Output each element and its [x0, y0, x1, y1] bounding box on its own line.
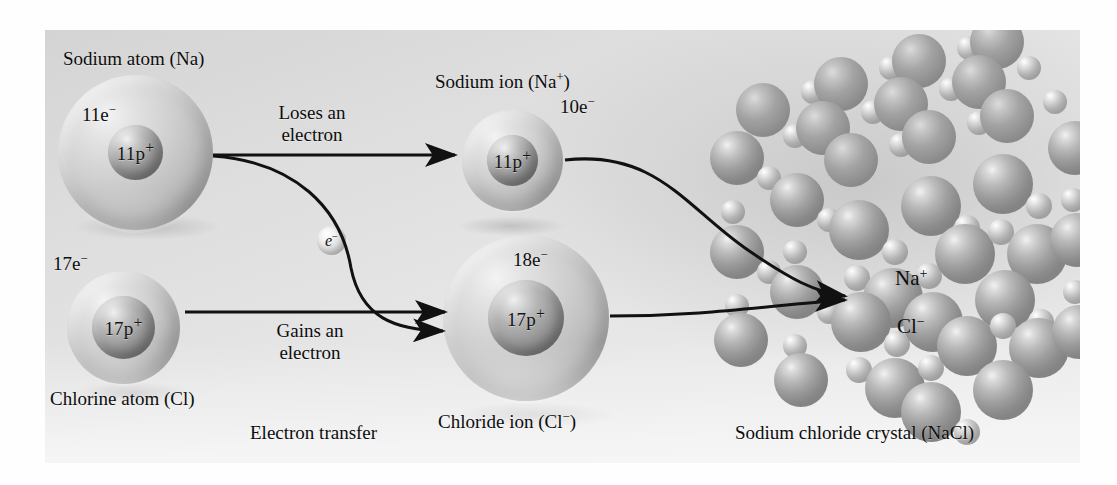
arrow-na-to-crystal — [565, 159, 845, 296]
sodium-ion-electron-label: 10e− — [560, 95, 595, 118]
chlorine-atom-electron-label: 17e− — [53, 252, 88, 275]
chlorine-atom-title: Chlorine atom (Cl) — [50, 388, 195, 410]
ionic-bonding-figure: 11p+ Sodium atom (Na) 11e− 17p+ 17e− Chl… — [0, 0, 1117, 485]
chloride-ion-electron-label: 18e− — [513, 248, 548, 271]
sodium-atom-electron-label: 11e− — [82, 103, 116, 126]
sodium-ion-title: Sodium ion (Na+) — [435, 70, 570, 93]
arrow-cl-to-crystal — [610, 300, 845, 316]
loses-electron-label: Loses an electron — [257, 102, 367, 147]
crystal-caption: Sodium chloride crystal (NaCl) — [735, 422, 974, 444]
electron-transfer-caption: Electron transfer — [250, 422, 377, 444]
illustration-panel: 11p+ Sodium atom (Na) 11e− 17p+ 17e− Chl… — [45, 30, 1080, 463]
arrow-electron-transfer — [213, 156, 443, 331]
sodium-atom-title: Sodium atom (Na) — [63, 48, 204, 70]
chloride-ion-title: Chloride ion (Cl−) — [438, 410, 576, 433]
gains-electron-label: Gains an electron — [250, 320, 370, 365]
